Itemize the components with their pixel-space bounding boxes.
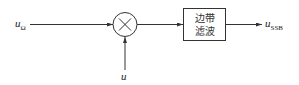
carrier-signal-label: u <box>121 70 127 82</box>
input-signal-label: uΩ <box>15 17 26 32</box>
filter-label-line1: 边带 <box>195 12 215 25</box>
block-diagram <box>0 0 299 85</box>
filter-label-line2: 滤波 <box>195 25 215 38</box>
sideband-filter-block: 边带 滤波 <box>183 8 226 41</box>
output-signal-label: uSSB <box>265 17 283 32</box>
